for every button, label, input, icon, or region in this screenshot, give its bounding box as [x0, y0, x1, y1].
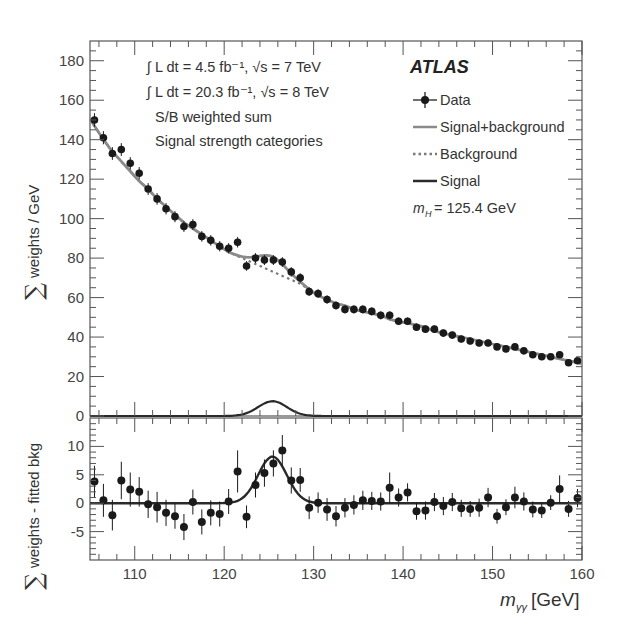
residual-data-point [296, 476, 304, 484]
residual-data-point [269, 459, 277, 467]
x-tick-label: 130 [301, 565, 326, 582]
data-point [162, 205, 170, 213]
y-tick-label: 0 [76, 407, 84, 424]
data-point [180, 223, 188, 231]
data-point [440, 329, 448, 337]
data-point [466, 337, 474, 345]
x-tick-label: 150 [480, 565, 505, 582]
legend-background: Background [413, 146, 517, 162]
data-point [189, 221, 197, 229]
x-tick-label: 120 [212, 565, 237, 582]
residual-data-point [466, 505, 474, 513]
residual-data-point [126, 486, 134, 494]
residual-data-point [547, 499, 555, 507]
residual-data-point [413, 507, 421, 515]
residual-data-point [377, 497, 385, 505]
data-point [261, 256, 269, 264]
lumi-8tev: ∫ L dt = 20.3 fb⁻¹, √s = 8 TeV [146, 84, 329, 101]
y-tick-label: 160 [59, 91, 84, 108]
data-point [198, 233, 206, 241]
annotations: ∫ L dt = 4.5 fb⁻¹, √s = 7 TeV ∫ L dt = 2… [146, 57, 469, 149]
residual-data-point [287, 476, 295, 484]
data-point [296, 274, 304, 282]
data-point [216, 242, 224, 250]
data-point [332, 302, 340, 310]
svg-text:γγ: γγ [516, 601, 529, 613]
residual-data-point [386, 484, 394, 492]
data-point [538, 353, 546, 361]
y-axis-label-main: ∑ weights / GeV [20, 185, 48, 300]
residual-data-point [448, 498, 456, 506]
residual-signal-curve [90, 457, 582, 504]
x-tick-label: 140 [391, 565, 416, 582]
y-tick-label: 10 [67, 437, 84, 454]
data-point [502, 345, 510, 353]
data-point [350, 306, 358, 314]
data-point [556, 351, 564, 359]
main-panel-curves [90, 119, 582, 416]
residual-data-point [404, 488, 412, 496]
residual-panel-curves [90, 457, 582, 504]
residual-panel-data-points [90, 435, 581, 540]
data-point [520, 347, 528, 355]
data-point [484, 339, 492, 347]
data-point [413, 323, 421, 331]
lumi-7tev: ∫ L dt = 4.5 fb⁻¹, √s = 7 TeV [146, 59, 321, 76]
y-tick-label: 40 [67, 328, 84, 345]
data-point [144, 185, 152, 193]
y-tick-label: 100 [59, 210, 84, 227]
svg-text:weights - fitted bkg: weights - fitted bkg [25, 443, 42, 569]
data-point [422, 325, 430, 333]
residual-data-point [171, 512, 179, 520]
data-point [314, 290, 322, 298]
residual-data-point [216, 510, 224, 518]
y-tick-label: 80 [67, 249, 84, 266]
data-point [100, 134, 108, 142]
data-point [207, 237, 215, 245]
atlas-diphoton-plot: 020406080100120140160180-505101101201301… [0, 0, 623, 638]
x-tick-label: 110 [123, 565, 147, 582]
residual-data-point [341, 504, 349, 512]
legend: Data Signal+background Background Signal… [413, 92, 565, 219]
residual-data-point [439, 502, 447, 510]
data-point [234, 239, 242, 247]
residual-data-point [565, 505, 573, 513]
x-tick-label: 160 [569, 565, 594, 582]
data-point [243, 262, 251, 270]
residual-data-point [475, 504, 483, 512]
svg-text:m: m [413, 200, 425, 216]
atlas-label: ATLAS [409, 57, 469, 77]
y-tick-label: 180 [59, 52, 84, 69]
data-point [305, 288, 313, 296]
svg-text:Data: Data [440, 92, 472, 108]
data-point [395, 317, 403, 325]
svg-text:H: H [425, 209, 432, 219]
residual-data-point [251, 481, 259, 489]
data-point [547, 353, 555, 361]
residual-data-point [180, 523, 188, 531]
residual-data-point [502, 503, 510, 511]
residual-data-point [198, 518, 206, 526]
data-point [386, 312, 394, 320]
residual-data-point [395, 494, 403, 502]
svg-text:Background: Background [440, 146, 517, 162]
data-point [359, 306, 367, 314]
higgs-mass-label: m H = 125.4 GeV [413, 200, 516, 219]
svg-text:Signal: Signal [440, 173, 480, 189]
data-point [377, 312, 385, 320]
y-tick-label: 20 [67, 368, 84, 385]
data-point [323, 296, 331, 304]
x-axis-label: m γγ [GeV] [500, 589, 580, 613]
sum-icon: ∑ [20, 283, 48, 300]
data-point [153, 195, 161, 203]
residual-data-point [574, 494, 582, 502]
residual-data-point [108, 511, 116, 519]
data-point [252, 254, 260, 262]
residual-data-point [234, 467, 242, 475]
data-point [448, 331, 456, 339]
legend-signal-background: Signal+background [413, 119, 565, 135]
residual-data-point [368, 497, 376, 505]
y-tick-label: 5 [76, 466, 84, 483]
data-point [431, 325, 439, 333]
residual-data-point [225, 497, 233, 505]
